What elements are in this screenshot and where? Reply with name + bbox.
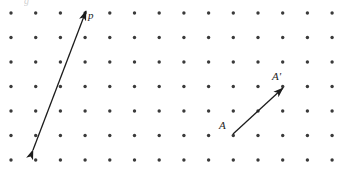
lattice-dot [133, 85, 136, 88]
lattice-dot [133, 36, 136, 39]
lattice-dot [256, 158, 259, 161]
lattice-dot [306, 85, 309, 88]
lattice-dot [34, 60, 37, 63]
lattice-dot [281, 60, 284, 63]
lattice-dot [133, 60, 136, 63]
lattice-canvas [0, 0, 341, 170]
lattice-dot [330, 60, 333, 63]
lattice-dot [306, 11, 309, 14]
lattice-dot [83, 109, 86, 112]
lattice-dot [9, 60, 12, 63]
lattice-dot [59, 85, 62, 88]
lattice-dot [158, 60, 161, 63]
lattice-dot [281, 109, 284, 112]
lattice-dot [83, 158, 86, 161]
lattice-dot [207, 158, 210, 161]
lattice-dot [34, 36, 37, 39]
lattice-dot [306, 60, 309, 63]
lattice-dot [59, 158, 62, 161]
vector-p-label: p [88, 10, 94, 21]
lattice-dot [306, 158, 309, 161]
lattice-dot [133, 109, 136, 112]
lattice-dot [182, 85, 185, 88]
lattice-dot [232, 109, 235, 112]
lattice-dot [182, 109, 185, 112]
lattice-dot [207, 109, 210, 112]
lattice-dot [83, 85, 86, 88]
lattice-dot [182, 158, 185, 161]
lattice-dot [330, 85, 333, 88]
lattice-dot [59, 60, 62, 63]
lattice-dot [306, 109, 309, 112]
lattice-dot [9, 109, 12, 112]
lattice-dot [9, 158, 12, 161]
lattice-dot [83, 60, 86, 63]
lattice-dot [232, 36, 235, 39]
lattice-dot [133, 158, 136, 161]
lattice-dot [108, 158, 111, 161]
point-a-label: A [219, 120, 226, 131]
clipped-top-glyph: g [24, 0, 29, 6]
lattice-dot [306, 134, 309, 137]
lattice-dot [108, 36, 111, 39]
lattice-dot [256, 134, 259, 137]
lattice-dot [232, 85, 235, 88]
lattice-dot [207, 36, 210, 39]
lattice-dot [34, 158, 37, 161]
lattice-dot [9, 85, 12, 88]
lattice-dot [34, 11, 37, 14]
lattice-dot [182, 36, 185, 39]
lattice-dot [158, 134, 161, 137]
lattice-dot [34, 85, 37, 88]
lattice-dot [34, 109, 37, 112]
lattice-dot [256, 60, 259, 63]
lattice-dot [108, 85, 111, 88]
lattice-dot [281, 11, 284, 14]
lattice-dot [158, 36, 161, 39]
lattice-dot [232, 158, 235, 161]
lattice-dot [9, 134, 12, 137]
lattice-dot [281, 36, 284, 39]
lattice-dot [330, 36, 333, 39]
lattice-dot [158, 109, 161, 112]
lattice-dot [108, 134, 111, 137]
lattice-dot [182, 60, 185, 63]
lattice-dot [59, 36, 62, 39]
lattice-dot [59, 11, 62, 14]
lattice-dot [330, 109, 333, 112]
lattice-dot [232, 11, 235, 14]
lattice-dot [207, 60, 210, 63]
lattice-dot [330, 158, 333, 161]
lattice-dot [207, 85, 210, 88]
lattice-dot [330, 11, 333, 14]
lattice-dot [158, 158, 161, 161]
lattice-dot [133, 11, 136, 14]
lattice-dot [108, 60, 111, 63]
lattice-dot [9, 11, 12, 14]
lattice-dot [232, 60, 235, 63]
lattice-dot [256, 85, 259, 88]
lattice-dot [281, 158, 284, 161]
figure-background [0, 0, 341, 170]
lattice-dot [256, 36, 259, 39]
lattice-vector-diagram: g p A A' [0, 0, 341, 170]
lattice-dot [9, 36, 12, 39]
lattice-dot [34, 134, 37, 137]
lattice-dot [59, 109, 62, 112]
lattice-dot [330, 134, 333, 137]
point-a-prime-label: A' [272, 71, 281, 82]
lattice-dot [182, 134, 185, 137]
lattice-dot [207, 11, 210, 14]
lattice-dot [256, 11, 259, 14]
lattice-dot [133, 134, 136, 137]
lattice-dot [207, 134, 210, 137]
lattice-dot [83, 36, 86, 39]
lattice-dot [59, 134, 62, 137]
lattice-dot [182, 11, 185, 14]
lattice-dot [108, 11, 111, 14]
lattice-dot [158, 85, 161, 88]
lattice-dot [108, 109, 111, 112]
lattice-dot [281, 134, 284, 137]
lattice-dot [158, 11, 161, 14]
lattice-dot [306, 36, 309, 39]
